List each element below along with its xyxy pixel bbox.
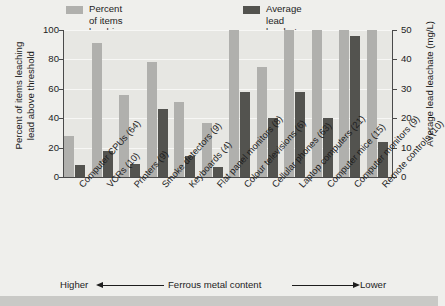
- y-axis-right-tick: [393, 59, 397, 60]
- x-axis-tick-labels: Computer CPUs (64)VCRs (10)Printers (9)S…: [0, 177, 438, 272]
- y-axis-left-tick: [59, 59, 63, 60]
- y-axis-right-tick: [393, 118, 397, 119]
- bottom-band: [0, 296, 438, 306]
- y-axis-left-tick: [59, 30, 63, 31]
- footer-label-lower: Lower: [360, 279, 386, 290]
- footer-inner: Higher Ferrous metal content Lower: [60, 278, 400, 294]
- bar-percent-leaching: [339, 30, 349, 177]
- bar-percent-leaching: [367, 30, 377, 177]
- y-axis-right-tick-label: 40: [401, 53, 441, 64]
- bar-percent-leaching: [64, 136, 74, 177]
- y-axis-left-tick-label: 60: [19, 83, 59, 94]
- y-axis-right-tick-label: 30: [401, 83, 441, 94]
- footer-line-left: [102, 285, 164, 286]
- y-axis-left-tick: [59, 89, 63, 90]
- arrow-right-icon: [353, 282, 360, 288]
- footer-label-center: Ferrous metal content: [168, 279, 261, 290]
- chart-footer: Higher Ferrous metal content Lower: [0, 278, 438, 294]
- y-axis-left-line: [63, 30, 64, 178]
- y-axis-left-tick-label: 80: [19, 53, 59, 64]
- bar-percent-leaching: [312, 30, 322, 177]
- y-axis-right-line: [392, 30, 393, 178]
- y-axis-right-tick: [393, 30, 397, 31]
- legend-swatch-percent: [66, 6, 83, 14]
- footer-label-higher: Higher: [60, 279, 88, 290]
- y-axis-left-tick-label: 40: [19, 112, 59, 123]
- bar-percent-leaching: [229, 30, 239, 177]
- y-axis-right-tick: [393, 89, 397, 90]
- y-axis-left-tick-label: 100: [19, 24, 59, 35]
- legend-swatch-leachate: [243, 6, 260, 14]
- y-axis-left-tick: [59, 148, 63, 149]
- bar-percent-leaching: [284, 30, 294, 177]
- bar-group: [63, 30, 91, 177]
- chart-legend: Percent of items leaching lead above thr…: [66, 4, 416, 32]
- y-axis-right-tick-label: 50: [401, 24, 441, 35]
- y-axis-left-tick: [59, 118, 63, 119]
- footer-line-right: [292, 285, 354, 286]
- y-axis-left-tick-label: 20: [19, 142, 59, 153]
